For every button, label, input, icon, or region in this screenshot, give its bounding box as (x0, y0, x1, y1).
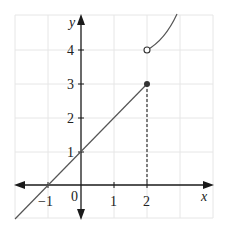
y-tick-3: 3 (67, 77, 74, 92)
arrow-up-icon (77, 14, 85, 25)
x-axis (14, 181, 214, 189)
closed-point (144, 81, 150, 87)
y-axis (77, 14, 85, 220)
x-axis-label: x (200, 189, 208, 204)
arrow-left-icon (14, 181, 25, 189)
open-point (144, 47, 150, 53)
x-tick-neg1: −1 (38, 194, 53, 209)
y-tick-2: 2 (67, 111, 74, 126)
y-tick-4: 4 (67, 43, 74, 58)
curve-segment (147, 14, 177, 50)
x-tick-2: 2 (143, 194, 150, 209)
graph: y x 4 3 2 1 0 −1 1 2 (0, 0, 226, 229)
arrow-right-icon (203, 181, 214, 189)
y-tick-1: 1 (67, 145, 74, 160)
origin-label: 0 (71, 189, 78, 204)
y-axis-label: y (67, 15, 76, 30)
x-tick-1: 1 (110, 194, 117, 209)
